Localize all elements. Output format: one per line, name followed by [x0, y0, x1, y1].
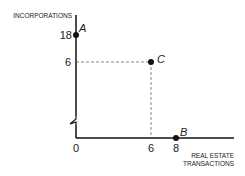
x-tick-6: 6 [148, 142, 154, 154]
x-tick-8: 8 [173, 142, 179, 154]
y-axis-break-icon [70, 116, 76, 125]
point-c-label: C [157, 53, 165, 65]
x-axis-label-line2: TRANSACTIONS [183, 160, 235, 167]
x-axis-label-line1: REAL ESTATE [191, 152, 235, 159]
y-tick-6: 6 [65, 56, 71, 68]
point-b-label: B [180, 126, 187, 138]
point-b [173, 135, 179, 141]
y-axis-label: INCORPORATIONS [13, 12, 72, 19]
chart: A C B 18 6 0 6 8 INCORPORATIONS REAL EST… [0, 0, 245, 176]
x-tick-0: 0 [73, 142, 79, 154]
y-tick-18: 18 [60, 29, 72, 41]
point-c [148, 59, 154, 65]
point-a-label: A [78, 22, 86, 34]
